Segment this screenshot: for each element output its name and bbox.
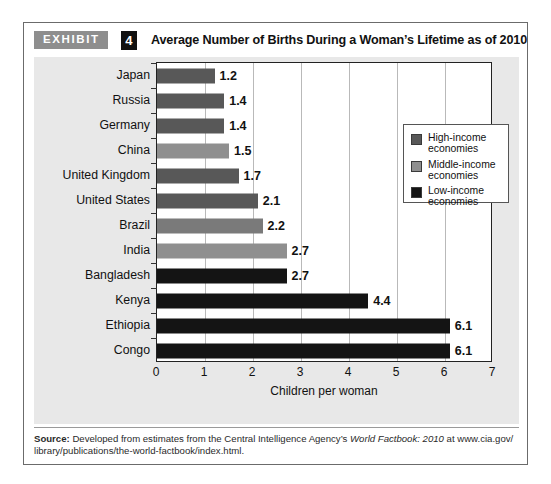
bar-value-label: 2.1 [263, 194, 280, 208]
bar [157, 243, 287, 258]
exhibit-tag-label: EXHIBIT [34, 31, 108, 49]
category-label: Congo [38, 343, 156, 357]
category-label: Kenya [38, 293, 156, 307]
legend-swatch-high-income [411, 134, 422, 145]
category-label: Ethiopia [38, 318, 156, 332]
x-axis-tick-label: 2 [249, 365, 256, 379]
category-label: United Kingdom [38, 168, 156, 182]
x-axis-tick-label: 1 [201, 365, 208, 379]
bar [157, 293, 368, 308]
source-note: Source: Developed from estimates from th… [34, 433, 514, 458]
bar-value-label: 2.2 [268, 219, 285, 233]
exhibit-number-badge: 4 [121, 31, 137, 50]
bar [157, 68, 215, 83]
category-label: United States [38, 193, 156, 207]
plot-frame: 1.21.41.41.51.72.12.22.72.74.46.16.1 Hig… [156, 62, 492, 362]
bar-value-label: 4.4 [373, 294, 390, 308]
category-tickmark [151, 63, 157, 64]
category-label: Bangladesh [38, 268, 156, 282]
bar [157, 118, 224, 133]
category-tickmark [151, 163, 157, 164]
bar [157, 193, 258, 208]
bar-value-label: 2.7 [292, 244, 309, 258]
bar-value-label: 6.1 [455, 344, 472, 358]
chart-legend: High-incomeeconomies Middle-incomeeconom… [403, 124, 509, 203]
legend-label-middle-income: Middle-incomeeconomies [428, 159, 496, 182]
gridline [301, 63, 302, 361]
bar [157, 318, 450, 333]
bar [157, 218, 263, 233]
source-text-1: Developed from estimates from the Centra… [70, 433, 350, 444]
gridline [445, 63, 446, 361]
category-tickmark [151, 88, 157, 89]
x-axis-tick-label: 0 [153, 365, 160, 379]
bar-value-label: 1.5 [234, 144, 251, 158]
legend-swatch-low-income [411, 187, 422, 198]
category-label: Russia [38, 93, 156, 107]
x-axis-tick-label: 6 [441, 365, 448, 379]
gridline [397, 63, 398, 361]
source-citation-title: World Factbook: 2010 [350, 433, 444, 444]
page-title: Average Number of Births During a Woman’… [151, 33, 527, 47]
x-axis-tick-label: 5 [393, 365, 400, 379]
exhibit-panel: EXHIBIT 4 Average Number of Births Durin… [23, 22, 528, 465]
bar-value-label: 1.2 [220, 69, 237, 83]
x-axis-tick-label: 3 [297, 365, 304, 379]
exhibit-header: EXHIBIT 4 Average Number of Births Durin… [24, 23, 527, 57]
category-label: Brazil [38, 218, 156, 232]
category-tickmark [151, 238, 157, 239]
category-tickmark [151, 113, 157, 114]
bar [157, 343, 450, 358]
legend-item: High-incomeeconomies [411, 132, 508, 155]
category-tickmark [151, 313, 157, 314]
category-label: Japan [38, 68, 156, 82]
source-label: Source: [34, 433, 70, 444]
gridline [349, 63, 350, 361]
bar [157, 168, 239, 183]
x-axis-title: Children per woman [156, 384, 492, 398]
bar-value-label: 6.1 [455, 319, 472, 333]
category-tickmark [151, 213, 157, 214]
category-tickmark [151, 288, 157, 289]
x-axis-tick-label: 4 [345, 365, 352, 379]
legend-swatch-middle-income [411, 161, 422, 172]
legend-label-low-income: Low-incomeeconomies [428, 185, 484, 208]
x-axis-tick-label: 7 [489, 365, 496, 379]
bar-value-label: 1.4 [229, 119, 246, 133]
legend-label-high-income: High-incomeeconomies [428, 132, 486, 155]
category-tickmark [151, 188, 157, 189]
gridline [253, 63, 254, 361]
bar-value-label: 2.7 [292, 269, 309, 283]
bar-value-label: 1.4 [229, 94, 246, 108]
category-label: India [38, 243, 156, 257]
legend-item: Middle-incomeeconomies [411, 159, 508, 182]
bar-value-label: 1.7 [244, 169, 261, 183]
bar [157, 93, 224, 108]
category-tickmark [151, 338, 157, 339]
category-label: China [38, 143, 156, 157]
category-tickmark [151, 263, 157, 264]
bar [157, 268, 287, 283]
bar [157, 143, 229, 158]
divider [34, 427, 519, 428]
category-tickmark [151, 138, 157, 139]
category-label: Germany [38, 118, 156, 132]
chart-area: 1.21.41.41.51.72.12.22.72.74.46.16.1 Hig… [34, 57, 519, 424]
legend-item: Low-incomeeconomies [411, 185, 508, 208]
